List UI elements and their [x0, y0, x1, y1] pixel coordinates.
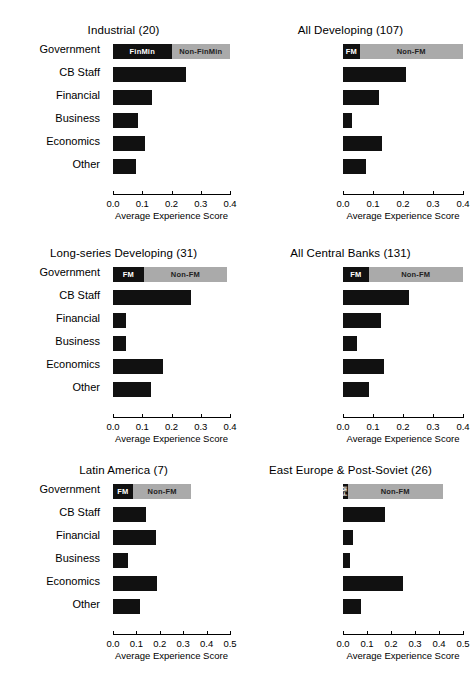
x-axis-tick-label: 0.0	[106, 638, 119, 649]
x-axis-tick	[403, 191, 404, 195]
bar-segment-nonfm: Non-FM	[133, 484, 192, 499]
bar-fill	[343, 382, 369, 397]
category-label: Business	[55, 112, 100, 124]
bar-fill	[113, 530, 156, 545]
x-axis-tick	[373, 191, 374, 195]
bar-fill	[113, 313, 126, 328]
x-axis-tick-label: 0.1	[366, 421, 379, 432]
bar-government: FMNon-FM	[343, 484, 443, 499]
bar-segment-nonfm: Non-FM	[348, 484, 443, 499]
x-axis-tick-label: 0.2	[384, 638, 397, 649]
bar-fill	[343, 336, 357, 351]
category-axis: GovernmentCB StaffFinancialBusinessEcono…	[0, 267, 106, 395]
segment-label-fm: FinMin	[113, 44, 172, 59]
bar-fill	[343, 159, 366, 174]
chart-panel-1: Industrial (20)GovernmentCB StaffFinanci…	[0, 22, 233, 244]
bar-financial	[343, 313, 381, 328]
x-axis-tick	[172, 191, 173, 195]
bar-fill	[343, 313, 381, 328]
x-axis-title: Average Experience Score	[343, 433, 463, 444]
segment-label-nonfm: Non-FM	[369, 267, 464, 282]
bar-fill	[343, 530, 353, 545]
x-axis: 0.00.10.20.30.40.5	[113, 634, 230, 635]
segment-label-nonfm: Non-FM	[133, 484, 192, 499]
plot-area: FinMinNon-FinMin0.00.10.20.30.4Average E…	[113, 44, 230, 172]
chart-panel-6: East Europe & Post-Soviet (26)FMNon-FM0.…	[233, 462, 466, 684]
bar-fill	[113, 507, 146, 522]
panel-title: All Central Banks (131)	[233, 247, 462, 259]
x-axis-tick	[113, 414, 114, 418]
bar-financial	[343, 530, 353, 545]
bar-fill	[113, 159, 136, 174]
bar-business	[343, 113, 352, 128]
x-axis-tick-label: 0.4	[456, 421, 469, 432]
bar-government: FMNon-FM	[113, 484, 191, 499]
x-axis-tick-label: 0.0	[106, 198, 119, 209]
segment-label-fm: FM	[343, 267, 369, 282]
x-axis-tick	[343, 191, 344, 195]
bar-business	[113, 336, 126, 351]
bar-business	[343, 336, 357, 351]
panel-title: Latin America (7)	[0, 464, 229, 476]
x-axis-title: Average Experience Score	[113, 433, 230, 444]
x-axis-tick-label: 0.1	[136, 421, 149, 432]
bar-segment-nonfm: Non-FM	[360, 44, 464, 59]
panel-title: Industrial (20)	[0, 24, 229, 36]
bar-fill	[113, 599, 140, 614]
segment-label-nonfm: Non-FM	[144, 267, 227, 282]
x-axis-tick	[201, 191, 202, 195]
bar-financial	[113, 90, 152, 105]
category-label: Government	[39, 43, 100, 55]
bar-segment-nonfm: Non-FM	[369, 267, 464, 282]
bar-business	[113, 553, 128, 568]
x-axis-tick	[433, 414, 434, 418]
category-label: Financial	[56, 529, 100, 541]
bar-government: FMNon-FM	[113, 267, 227, 282]
category-label: Other	[72, 381, 100, 393]
plot-area: FMNon-FM0.00.10.20.30.4Average Experienc…	[343, 267, 463, 395]
segment-label-nonfm: Non-FM	[348, 484, 443, 499]
bar-fill	[113, 113, 138, 128]
x-axis-tick	[230, 414, 231, 418]
bar-fill	[343, 507, 385, 522]
x-axis-tick-label: 0.4	[432, 638, 445, 649]
plot-area: FMNon-FM0.00.10.20.30.40.5Average Experi…	[343, 484, 463, 612]
plot-area: FMNon-FM0.00.10.20.30.4Average Experienc…	[343, 44, 463, 172]
segment-label-fm: FM	[113, 484, 133, 499]
x-axis-tick	[367, 631, 368, 635]
x-axis-tick-label: 0.0	[106, 421, 119, 432]
x-axis-tick	[142, 191, 143, 195]
x-axis-tick-label: 0.5	[456, 638, 469, 649]
bar-cb-staff	[113, 290, 191, 305]
x-axis-title: Average Experience Score	[113, 210, 230, 221]
plot-area: FMNon-FM0.00.10.20.30.4Average Experienc…	[113, 267, 230, 395]
chart-panel-4: All Central Banks (131)FMNon-FM0.00.10.2…	[233, 245, 466, 467]
bar-other	[113, 159, 136, 174]
bar-fill	[113, 359, 163, 374]
category-label: Other	[72, 158, 100, 170]
category-label: CB Staff	[59, 289, 100, 301]
bar-government: FinMinNon-FinMin	[113, 44, 230, 59]
segment-label-fm: FM	[343, 44, 360, 59]
bar-cb-staff	[343, 67, 406, 82]
x-axis-tick-label: 0.4	[200, 638, 213, 649]
panel-title: East Europe & Post-Soviet (26)	[233, 464, 462, 476]
x-axis-tick-label: 0.1	[366, 198, 379, 209]
bar-segment-fm: FinMin	[113, 44, 172, 59]
x-axis-tick-label: 0.4	[456, 198, 469, 209]
bar-other	[343, 599, 361, 614]
bar-other	[343, 382, 369, 397]
bar-cb-staff	[113, 67, 186, 82]
bar-economics	[343, 359, 384, 374]
chart-panel-5: Latin America (7)GovernmentCB StaffFinan…	[0, 462, 233, 684]
bar-fill	[343, 599, 361, 614]
x-axis-title: Average Experience Score	[343, 650, 463, 661]
bar-segment-fm: FM	[343, 267, 369, 282]
bar-fill	[343, 553, 350, 568]
x-axis-tick	[403, 414, 404, 418]
category-axis: GovernmentCB StaffFinancialBusinessEcono…	[0, 484, 106, 612]
bar-fill	[113, 382, 151, 397]
x-axis: 0.00.10.20.30.4	[113, 417, 230, 418]
x-axis: 0.00.10.20.30.4	[113, 194, 230, 195]
